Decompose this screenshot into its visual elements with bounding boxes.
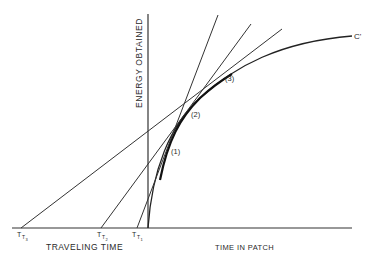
marginal-value-diagram: ENERGY OBTAINED (1) (2) (3) C' T T 3 T T… [0,0,373,261]
svg-text:1: 1 [141,237,144,242]
travel-time-label-1: T T 1 [132,231,144,242]
tangent-line-2 [101,24,251,228]
gain-curve [148,36,352,228]
gain-curve-highlight [160,74,232,180]
point-label-3: (3) [225,74,235,83]
curve-label: C' [354,32,362,41]
traveling-time-label: TRAVELING TIME [46,242,123,252]
point-label-2: (2) [191,110,201,119]
y-axis-label: ENERGY OBTAINED [134,18,144,108]
time-in-patch-label: TIME IN PATCH [215,243,274,252]
point-label-1: (1) [171,147,181,156]
tangent-line-1 [137,15,218,228]
svg-text:3: 3 [26,237,29,242]
travel-time-label-2: T T 2 [97,231,109,242]
travel-time-label-3: T T 3 [17,231,29,242]
